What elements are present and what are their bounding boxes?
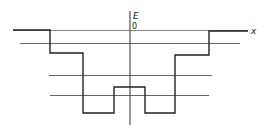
x-axis-label: x	[250, 26, 257, 36]
potential-well-diagram: E 0 x	[0, 0, 269, 131]
origin-label: 0	[132, 22, 137, 31]
energy-axis-label: E	[133, 11, 139, 21]
